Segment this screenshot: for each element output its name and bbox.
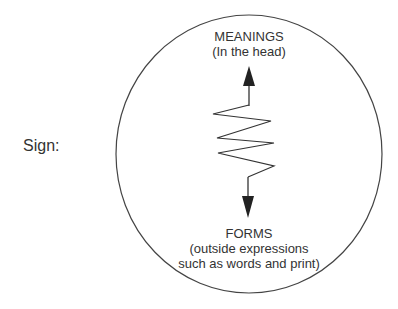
arrow-up-icon [243,66,255,106]
meanings-label: MEANINGS (In the head) [190,29,308,59]
forms-label: FORMS (outside expressions such as words… [160,226,338,271]
zigzag-connector [213,105,274,177]
sign-diagram: Sign: MEANINGS (In the head) FORMS (outs… [0,0,398,309]
forms-title: FORMS [160,226,338,241]
meanings-title: MEANINGS [190,29,308,44]
forms-subtitle-line1: (outside expressions [160,241,338,256]
meanings-subtitle: (In the head) [190,44,308,59]
arrow-down-icon [242,177,254,218]
forms-subtitle-line2: such as words and print) [160,256,338,271]
sign-label: Sign: [23,137,59,155]
